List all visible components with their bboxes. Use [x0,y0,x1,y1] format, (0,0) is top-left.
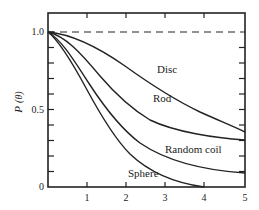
curve-rod [48,32,245,140]
x-tick-label-3: 3 [163,192,168,203]
y-tick-label-0-5: 0.5 [32,104,45,115]
label-rod: Rod [153,92,172,104]
y-axis-label: P(θ) [12,91,25,114]
label-sphere: Sphere [128,167,159,179]
y-tick-label-0: 0 [39,181,44,192]
svg-text:P(θ): P(θ) [12,91,25,114]
curve-sphere [48,32,204,187]
curve-disc [48,32,245,132]
label-disc: Disc [157,63,177,75]
x-tick-label-4: 4 [202,192,207,203]
label-random-coil: Random coil [165,143,222,155]
x-tick-label-5: 5 [243,192,248,203]
x-ticks [87,13,204,187]
y-tick-label-1-0: 1.0 [32,26,45,37]
x-tick-label-1: 1 [85,192,90,203]
x-tick-label-2: 2 [124,192,129,203]
chart: 1 2 3 4 5 0 0.5 1.0 P(θ) Disc Rod Random… [0,0,259,210]
